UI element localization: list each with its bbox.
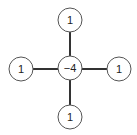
node-top-label: 1 [67,14,73,26]
node-left-label: 1 [18,63,24,75]
node-bottom-label: 1 [67,111,73,123]
node-center: −4 [58,56,82,80]
node-center-label: −4 [64,62,77,74]
node-left: 1 [9,57,33,81]
node-right-label: 1 [116,63,122,75]
node-top: 1 [58,8,82,32]
stencil-diagram: 1 1 −4 1 1 [0,0,137,135]
node-right: 1 [107,57,131,81]
node-bottom: 1 [58,105,82,129]
